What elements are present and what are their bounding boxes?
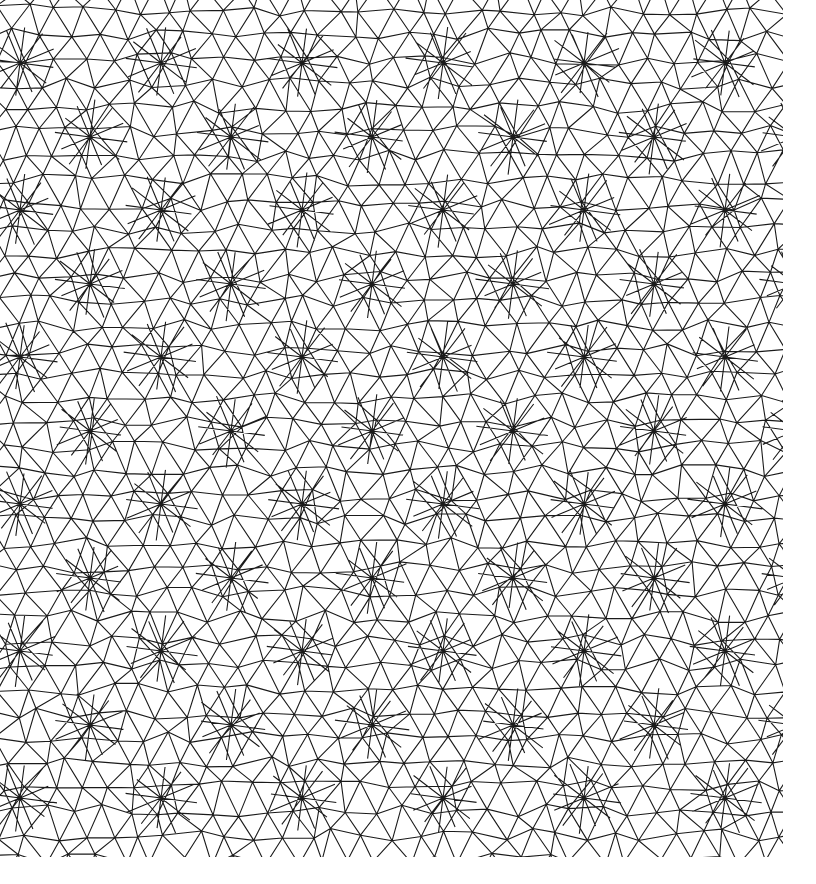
triangulated-mesh-pattern bbox=[0, 0, 816, 884]
